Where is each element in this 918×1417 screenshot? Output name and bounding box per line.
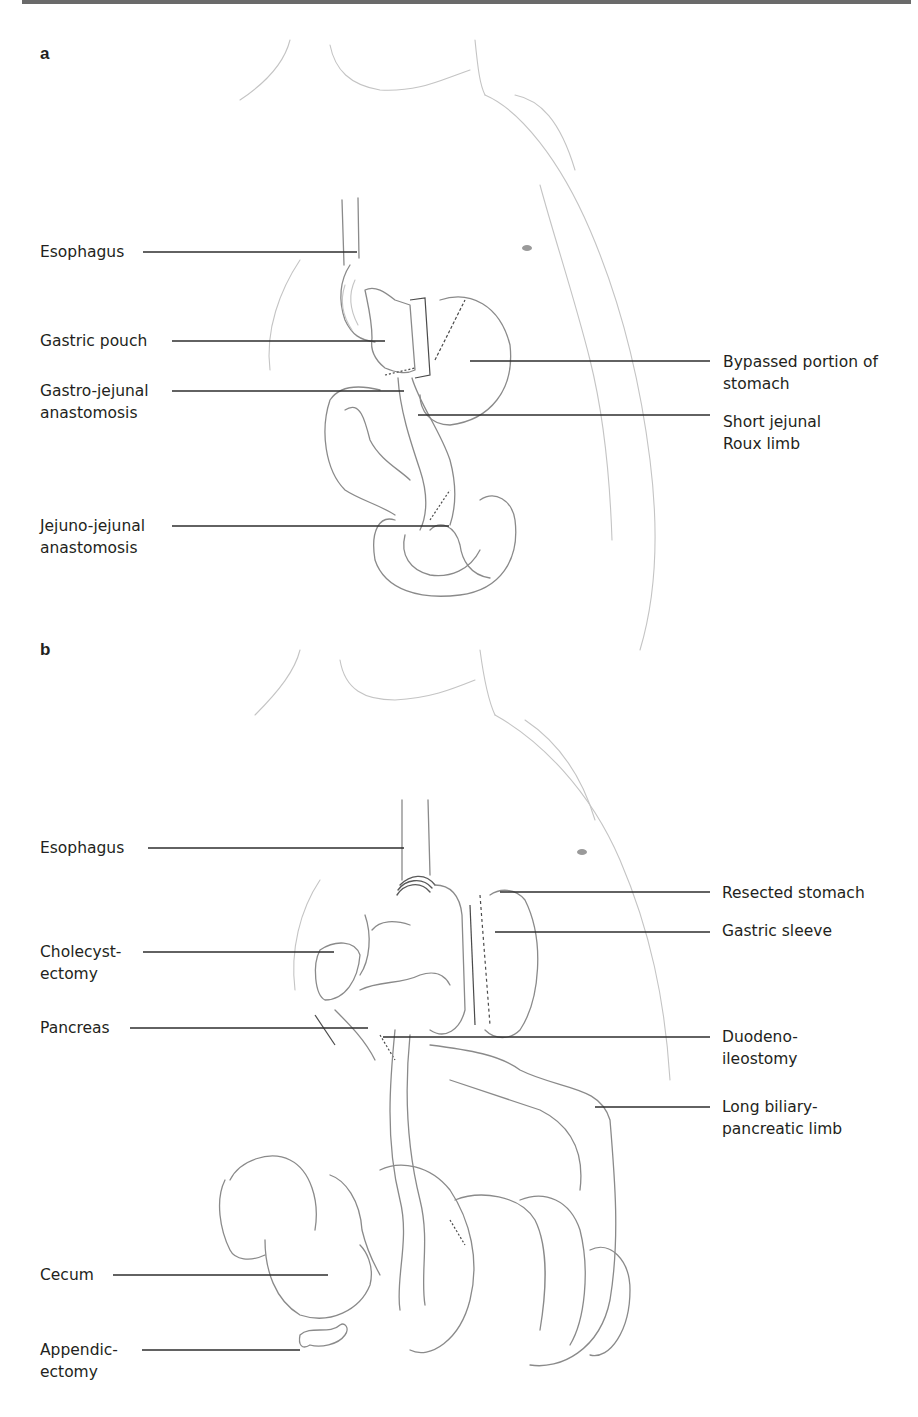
label-a-roux-limb: Short jejunal Roux limb [723, 411, 821, 455]
label-b-gastric-sleeve: Gastric sleeve [722, 920, 832, 942]
label-b-cholecystectomy: Cholecyst- ectomy [40, 941, 121, 985]
panel-a-letter: a [40, 44, 49, 64]
panel-b-organs [220, 800, 630, 1366]
panel-a-leader-lines [143, 252, 710, 526]
label-a-jejuno-jejunal-anastomosis: Jejuno-jejunal anastomosis [40, 515, 145, 559]
panel-a-body-outline [240, 40, 655, 650]
panel-a-organs [325, 198, 516, 596]
label-b-duodeno-ileostomy: Duodeno- ileostomy [722, 1026, 798, 1070]
panel-b-leader-lines [113, 848, 710, 1350]
label-b-pancreas: Pancreas [40, 1017, 110, 1039]
label-a-gastro-jejunal-anastomosis: Gastro-jejunal anastomosis [40, 380, 149, 424]
panel-b-letter: b [40, 640, 50, 660]
label-b-biliary-pancreatic-limb: Long biliary- pancreatic limb [722, 1096, 842, 1140]
label-a-bypassed-stomach: Bypassed portion of stomach [723, 351, 878, 395]
label-b-esophagus: Esophagus [40, 837, 124, 859]
panel-b-body-outline [255, 650, 670, 1080]
label-b-resected-stomach: Resected stomach [722, 882, 865, 904]
anatomical-sketch [0, 0, 918, 1417]
label-a-gastric-pouch: Gastric pouch [40, 330, 147, 352]
label-b-cecum: Cecum [40, 1264, 94, 1286]
label-a-esophagus: Esophagus [40, 241, 124, 263]
label-b-appendectomy: Appendic- ectomy [40, 1339, 118, 1383]
